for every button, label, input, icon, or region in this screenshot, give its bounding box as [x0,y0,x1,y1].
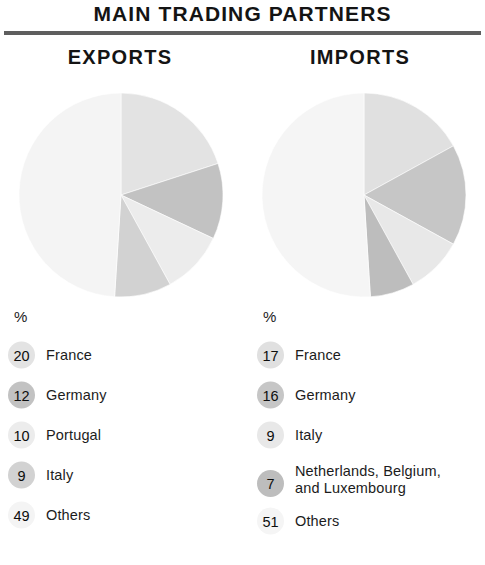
legend-swatch-value: 49 [8,502,35,529]
legend-item: 9Italy [243,415,485,455]
page-title: MAIN TRADING PARTNERS [0,2,485,26]
legend-swatch-value: 7 [257,470,284,497]
legend-item-label: Portugal [46,427,101,444]
legend-swatch-value: 9 [257,422,284,449]
imports-heading: IMPORTS [239,46,481,69]
legend-swatch-value: 10 [8,422,35,449]
legend-swatch-value: 17 [257,342,284,369]
title-divider [4,31,481,35]
legend-swatch-value: 12 [8,382,35,409]
legend-item-label: Netherlands, Belgium, and Luxembourg [295,463,441,497]
legend-swatch-value: 9 [8,462,35,489]
infographic-page: MAIN TRADING PARTNERS EXPORTS % 20France… [0,0,485,565]
legend-item: 49Others [0,495,242,535]
legend-item: 10Portugal [0,415,242,455]
exports-pie-chart [0,90,242,302]
imports-section: IMPORTS % 17France16Germany9Italy7Nether… [243,46,485,565]
legend-item: 17France [243,335,485,375]
legend-swatch-value: 16 [257,382,284,409]
imports-pie-chart [243,90,485,302]
legend-item-label: France [295,347,341,364]
legend-item-label: Italy [46,467,73,484]
exports-section: EXPORTS % 20France12Germany10Portugal9It… [0,46,242,565]
imports-percent-label: % [263,308,277,325]
exports-legend-list: 20France12Germany10Portugal9Italy49Other… [0,335,242,535]
legend-item-label: Italy [295,427,322,444]
pie-slice [19,93,121,297]
legend-item: 20France [0,335,242,375]
legend-item: 7Netherlands, Belgium, and Luxembourg [243,455,485,501]
imports-legend-list: 17France16Germany9Italy7Netherlands, Bel… [243,335,485,541]
legend-item: 12Germany [0,375,242,415]
legend-item-label: Others [295,513,339,530]
exports-percent-label: % [14,308,28,325]
legend-item: 51Others [243,501,485,541]
imports-pie-svg [259,90,469,300]
legend-swatch-value: 51 [257,508,284,535]
exports-pie-svg [16,90,226,300]
legend-item-label: Others [46,507,90,524]
legend-item-label: France [46,347,92,364]
legend-item-label: Germany [46,387,107,404]
exports-heading: EXPORTS [0,46,241,69]
legend-swatch-value: 20 [8,342,35,369]
legend-item: 9Italy [0,455,242,495]
legend-item-label: Germany [295,387,356,404]
pie-slice [262,93,370,297]
legend-item: 16Germany [243,375,485,415]
